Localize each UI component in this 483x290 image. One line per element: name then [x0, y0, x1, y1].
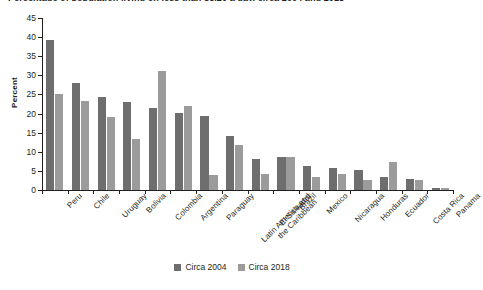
- bar: [261, 174, 269, 190]
- bar: [354, 170, 362, 190]
- y-tick-label: 25: [12, 90, 36, 98]
- bar: [432, 188, 440, 190]
- bar: [200, 116, 208, 190]
- bar: [235, 145, 243, 190]
- bar: [286, 157, 294, 190]
- bar: [98, 97, 106, 190]
- bar: [55, 94, 63, 190]
- legend-label: Circa 2004: [185, 262, 226, 272]
- x-axis-label: Peru: [66, 192, 84, 210]
- bar: [175, 113, 183, 190]
- bar: [406, 179, 414, 190]
- bar: [441, 188, 449, 190]
- y-tick-label: 45: [12, 14, 36, 22]
- y-tick-label: 30: [12, 71, 36, 79]
- x-tick: [453, 190, 454, 194]
- bar: [158, 71, 166, 190]
- bar: [107, 117, 115, 190]
- legend-item: Circa 2018: [238, 262, 290, 272]
- y-tick-label: 40: [12, 33, 36, 41]
- bar-series-container: [42, 18, 453, 190]
- bar: [226, 136, 234, 190]
- bar: [415, 180, 423, 190]
- x-axis-label: Bolivia: [145, 192, 168, 215]
- bar: [363, 180, 371, 190]
- bar: [252, 159, 260, 190]
- bar: [81, 101, 89, 190]
- legend-swatch-icon: [174, 264, 181, 271]
- bar: [123, 102, 131, 190]
- y-tick-label: 10: [12, 148, 36, 156]
- chart-legend: Circa 2004Circa 2018: [0, 262, 464, 272]
- bar: [72, 83, 80, 190]
- bar: [312, 177, 320, 190]
- legend-item: Circa 2004: [174, 262, 226, 272]
- bar: [132, 139, 140, 190]
- x-axis-label: Chile: [92, 192, 111, 211]
- y-tick-label: 5: [12, 167, 36, 175]
- plot-area: 051015202530354045: [42, 18, 453, 190]
- bar: [338, 174, 346, 190]
- y-tick-label: 0: [12, 186, 36, 194]
- bar: [380, 177, 388, 190]
- x-axis-labels: PeruChileUruguayBoliviaColombiaArgentina…: [42, 192, 453, 252]
- x-axis-label: Mexico: [325, 192, 349, 216]
- bar: [303, 166, 311, 190]
- x-axis-label: Paraguay: [225, 192, 256, 223]
- bar: [389, 162, 397, 190]
- y-tick-label: 20: [12, 110, 36, 118]
- bar: [184, 106, 192, 190]
- bar: [46, 40, 54, 190]
- legend-label: Circa 2018: [249, 262, 290, 272]
- bar: [209, 175, 217, 190]
- legend-swatch-icon: [238, 264, 245, 271]
- bar: [277, 157, 285, 190]
- chart-title: Percentage of population living on less …: [8, 0, 344, 1]
- y-tick-label: 35: [12, 52, 36, 60]
- y-tick-label: 15: [12, 129, 36, 137]
- bar: [329, 168, 337, 190]
- bar: [149, 108, 157, 190]
